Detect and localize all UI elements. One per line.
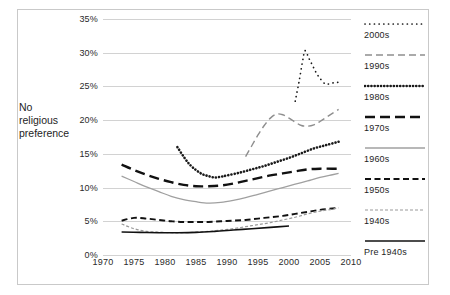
x-axis-tick-label: 1980 xyxy=(155,257,176,267)
legend-swatch xyxy=(364,20,426,28)
legend-swatch xyxy=(364,144,426,152)
legend-item-1950s[interactable]: 1950s xyxy=(364,175,432,195)
legend-swatch xyxy=(364,206,426,214)
x-axis-tick-label: 1970 xyxy=(93,257,114,267)
series-line-1950s xyxy=(122,208,339,222)
legend-label: 1960s xyxy=(364,154,432,164)
legend-item-1980s[interactable]: 1980s xyxy=(364,82,432,102)
x-axis-tick-label: 1990 xyxy=(217,257,238,267)
x-axis-tick-label: 1975 xyxy=(124,257,145,267)
series-line-2000s xyxy=(295,51,338,102)
legend-label: 1940s xyxy=(364,216,432,226)
series-line-1980s xyxy=(177,142,338,178)
y-axis-tick-label: 35% xyxy=(79,14,98,24)
x-axis-tick-label: 1995 xyxy=(248,257,269,267)
y-axis-tick-label: 30% xyxy=(79,48,98,58)
series-lines xyxy=(103,19,351,255)
legend-label: Pre 1940s xyxy=(364,247,432,257)
legend-swatch xyxy=(364,82,426,90)
x-axis-tick-label: 2010 xyxy=(341,257,362,267)
chart-legend: 2000s1990s1980s1970s1960s1950s1940sPre 1… xyxy=(364,18,434,268)
legend-item-pre-1940s[interactable]: Pre 1940s xyxy=(364,237,432,257)
x-axis-tick-label: 2005 xyxy=(310,257,331,267)
legend-item-1940s[interactable]: 1940s xyxy=(364,206,432,226)
legend-label: 1950s xyxy=(364,185,432,195)
y-axis-title-line-1: No xyxy=(19,101,91,114)
legend-item-1970s[interactable]: 1970s xyxy=(364,113,432,133)
legend-label: 1980s xyxy=(364,92,432,102)
legend-label: 1970s xyxy=(364,123,432,133)
chart-figure: No religious preference 0%5%10%15%20%25%… xyxy=(0,0,450,295)
y-axis-tick-label: 20% xyxy=(79,115,98,125)
legend-swatch xyxy=(364,51,426,59)
series-line-1990s xyxy=(246,109,339,156)
y-axis-tick-label: 10% xyxy=(79,183,98,193)
legend-swatch xyxy=(364,237,426,245)
gridline xyxy=(103,255,351,256)
y-axis-tick-label: 15% xyxy=(79,149,98,159)
series-line-pre-1940s xyxy=(122,226,289,233)
legend-item-1990s[interactable]: 1990s xyxy=(364,51,432,71)
legend-item-2000s[interactable]: 2000s xyxy=(364,20,432,40)
series-line-1970s xyxy=(122,165,339,187)
legend-label: 2000s xyxy=(364,30,432,40)
legend-item-1960s[interactable]: 1960s xyxy=(364,144,432,164)
plot-area: 0%5%10%15%20%25%30%35% 19701975198019851… xyxy=(103,19,351,255)
legend-swatch xyxy=(364,113,426,121)
y-axis-title-line-3: preference xyxy=(19,127,91,140)
x-axis-tick-label: 1985 xyxy=(186,257,207,267)
x-axis-tick-label: 2000 xyxy=(279,257,300,267)
legend-label: 1990s xyxy=(364,61,432,71)
y-axis-tick-label: 25% xyxy=(79,81,98,91)
legend-swatch xyxy=(364,175,426,183)
y-axis-tick-label: 5% xyxy=(85,216,98,226)
